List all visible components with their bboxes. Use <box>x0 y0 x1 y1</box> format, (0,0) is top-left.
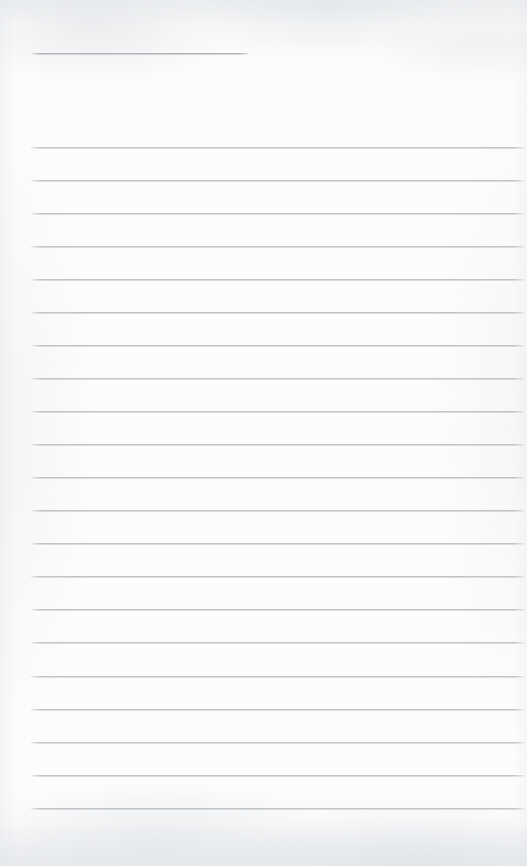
ruled-line <box>30 543 524 545</box>
paper-page <box>0 0 527 866</box>
ruled-line <box>30 709 524 711</box>
ruled-line <box>30 808 524 810</box>
ruled-line <box>30 312 524 314</box>
title-rule <box>30 53 248 55</box>
ruled-line <box>30 444 524 446</box>
ruled-line <box>30 180 524 182</box>
ruled-line <box>30 213 524 215</box>
ruled-line <box>30 378 524 380</box>
scan-vignette-overlay <box>0 0 527 866</box>
ruled-line <box>30 345 524 347</box>
ruled-line <box>30 147 524 149</box>
paper-grain-overlay <box>0 0 527 866</box>
ruled-line <box>30 279 524 281</box>
ruled-line <box>30 676 524 678</box>
ruled-line <box>30 477 524 479</box>
ruled-line <box>30 246 524 248</box>
ruled-line <box>30 576 524 578</box>
ruled-line <box>30 775 524 777</box>
ruled-line <box>30 642 524 644</box>
ruled-line <box>30 609 524 611</box>
ruled-line <box>30 411 524 413</box>
ruled-line <box>30 510 524 512</box>
ruled-line <box>30 742 524 744</box>
